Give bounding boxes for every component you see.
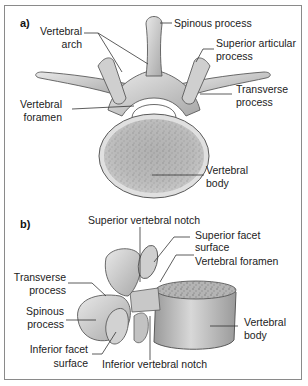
panel-b-letter: b) bbox=[20, 218, 30, 230]
label-transverse-line2-a: process bbox=[236, 96, 273, 108]
label-vertebral-body-line1-a: Vertebral bbox=[206, 164, 248, 176]
label-superior-articular-line2: process bbox=[216, 50, 253, 62]
label-vertebral-foramen-line2-a: foramen bbox=[14, 111, 62, 123]
label-superior-facet-line1: Superior facet bbox=[195, 229, 260, 241]
label-spinous-line2-b: process bbox=[12, 318, 64, 330]
label-spinous-process-a: Spinous process bbox=[174, 17, 252, 29]
label-inferior-facet-line1: Inferior facet bbox=[10, 343, 88, 355]
label-vertebral-arch-line2: arch bbox=[38, 38, 82, 50]
label-transverse-line1-b: Transverse bbox=[12, 271, 66, 283]
label-transverse-line2-b: process bbox=[12, 284, 66, 296]
label-vertebral-arch-line1: Vertebral bbox=[38, 25, 82, 37]
label-superior-facet-line2: surface bbox=[195, 241, 229, 253]
label-vertebral-body-line2-a: body bbox=[206, 177, 229, 189]
label-spinous-line1-b: Spinous bbox=[12, 305, 64, 317]
label-inferior-facet-line2: surface bbox=[10, 357, 88, 369]
label-vertebral-foramen-line1-a: Vertebral bbox=[14, 98, 62, 110]
panel-a-letter: a) bbox=[20, 17, 30, 29]
label-vertebral-body-line1-b: Vertebral bbox=[244, 316, 286, 328]
label-superior-articular-line1: Superior articular bbox=[216, 37, 296, 49]
label-inferior-vertebral-notch: Inferior vertebral notch bbox=[102, 358, 207, 370]
label-vertebral-foramen-b: Vertebral foramen bbox=[195, 255, 278, 267]
label-superior-vertebral-notch: Superior vertebral notch bbox=[88, 214, 200, 226]
label-vertebral-body-line2-b: body bbox=[244, 329, 267, 341]
label-transverse-line1-a: Transverse bbox=[236, 83, 288, 95]
